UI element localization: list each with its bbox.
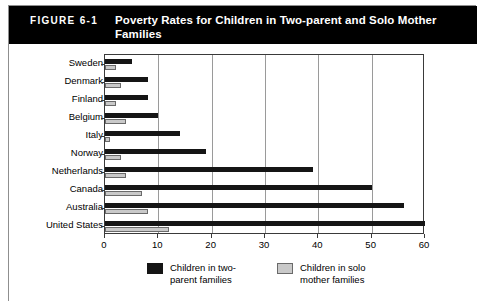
y-axis-label: Finland [23, 93, 103, 104]
y-axis-tick [101, 136, 105, 137]
bar-row [105, 73, 423, 91]
x-axis-tick-label: 40 [312, 239, 323, 250]
plot-wrapper: SwedenDenmarkFinlandBelgiumItalyNorwayNe… [9, 44, 477, 244]
figure-container: FIGURE 6-1 Poverty Rates for Children in… [8, 5, 476, 301]
bar-solo-mother [105, 155, 121, 160]
bar-two-parent [105, 113, 158, 118]
bar-two-parent [105, 203, 404, 208]
y-axis-tick [101, 82, 105, 83]
y-axis-tick [101, 154, 105, 155]
x-axis-tick-label: 30 [259, 239, 270, 250]
bar-two-parent [105, 167, 313, 172]
y-axis-tick [101, 226, 105, 227]
y-axis-tick [101, 118, 105, 119]
legend-label-two-parent: Children in two- parent families [170, 262, 236, 285]
bar-row [105, 145, 423, 163]
bar-solo-mother [105, 83, 121, 88]
x-axis-ticks: 0102030405060 [104, 234, 424, 254]
y-axis-label: Norway [23, 147, 103, 158]
legend-label-solo-mother: Children in solo mother families [300, 262, 365, 285]
bar-two-parent [105, 95, 148, 100]
bar-row [105, 55, 423, 73]
bar-two-parent [105, 131, 180, 136]
x-axis-tick [104, 234, 105, 238]
bar-two-parent [105, 149, 206, 154]
x-axis-tick [317, 234, 318, 238]
figure-title: Poverty Rates for Children in Two-parent… [115, 13, 460, 41]
y-axis-label: Netherlands [23, 165, 103, 176]
bar-row [105, 109, 423, 127]
y-axis-label: Belgium [23, 111, 103, 122]
y-axis-label: Australia [23, 201, 103, 212]
y-axis-tick [101, 64, 105, 65]
bar-row [105, 163, 423, 181]
x-axis-tick [157, 234, 158, 238]
x-axis-tick-label: 10 [152, 239, 163, 250]
bar-two-parent [105, 77, 148, 82]
bar-solo-mother [105, 119, 126, 124]
x-axis-tick [424, 234, 425, 238]
bar-row [105, 217, 423, 235]
x-axis-tick-label: 20 [205, 239, 216, 250]
bar-row [105, 181, 423, 199]
x-axis-tick [264, 234, 265, 238]
bar-row [105, 199, 423, 217]
y-axis-tick [101, 208, 105, 209]
legend-item-two-parent: Children in two- parent families [147, 262, 236, 285]
bar-solo-mother [105, 101, 116, 106]
x-axis-tick [371, 234, 372, 238]
bar-solo-mother [105, 227, 169, 232]
y-axis-tick [101, 172, 105, 173]
bar-two-parent [105, 221, 425, 226]
bar-solo-mother [105, 173, 126, 178]
bar-solo-mother [105, 137, 110, 142]
x-axis-tick-label: 0 [101, 239, 106, 250]
y-axis-tick [101, 100, 105, 101]
x-axis-tick-label: 60 [419, 239, 430, 250]
legend-swatch-two-parent-icon [147, 263, 163, 274]
y-axis-label: Italy [23, 129, 103, 140]
bar-solo-mother [105, 209, 148, 214]
chart-legend: Children in two- parent families Childre… [9, 262, 477, 296]
bar-solo-mother [105, 65, 116, 70]
bar-two-parent [105, 59, 132, 64]
figure-number: FIGURE 6-1 [30, 15, 98, 26]
bar-two-parent [105, 185, 372, 190]
y-axis-label: Canada [23, 183, 103, 194]
y-axis-labels: SwedenDenmarkFinlandBelgiumItalyNorwayNe… [23, 54, 103, 234]
y-axis-label: Sweden [23, 57, 103, 68]
bar-row [105, 127, 423, 145]
y-axis-tick [101, 190, 105, 191]
bar-row [105, 91, 423, 109]
x-axis-tick-label: 50 [365, 239, 376, 250]
legend-item-solo-mother: Children in solo mother families [277, 262, 365, 285]
plot-area [104, 54, 424, 234]
y-axis-label: Denmark [23, 75, 103, 86]
legend-swatch-solo-mother-icon [277, 263, 293, 274]
chart-body: SwedenDenmarkFinlandBelgiumItalyNorwayNe… [9, 44, 477, 301]
figure-header: FIGURE 6-1 Poverty Rates for Children in… [9, 6, 477, 44]
x-axis-tick [211, 234, 212, 238]
y-axis-label: United States [23, 219, 103, 230]
bar-solo-mother [105, 191, 142, 196]
